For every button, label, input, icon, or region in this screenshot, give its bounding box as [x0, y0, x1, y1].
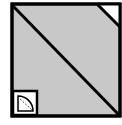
split-square-diagram: [0, 0, 122, 125]
inset-box: [13, 91, 37, 115]
